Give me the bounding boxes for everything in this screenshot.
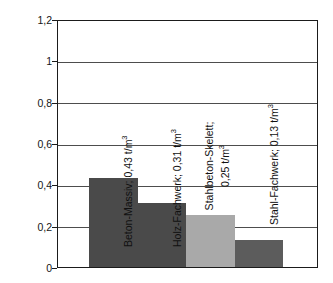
y-axis-tick-label: 0,8 <box>12 97 52 109</box>
y-axis-tick-label: 0,6 <box>12 138 52 150</box>
bar-annotation: Stahlbeton-Skelett;0,25 t/m3 <box>204 107 231 225</box>
bar-annotation-line: 0,25 t/m3 <box>216 107 231 225</box>
bar-annotation-line: Stahlbeton-Skelett; <box>204 107 216 225</box>
y-axis-tick-label: 0,2 <box>12 221 52 233</box>
y-axis-tick-label: 0 <box>12 262 52 274</box>
y-axis-tick-label: 1,2 <box>12 14 52 26</box>
bar-annotation: Beton-Massiv; 0,43 t/m3 <box>119 135 134 247</box>
chart-figure: Spez. Bauschuttmenge [t/m3 BRI] 00,20,40… <box>0 0 333 283</box>
bar-annotation: Holz-Fachwerk; 0,31 t/m3 <box>168 129 183 247</box>
bar <box>235 240 284 267</box>
y-axis-tick-label: 1 <box>12 55 52 67</box>
bar-annotation: Stahl-Fachwerk; 0,13 t/m3 <box>265 104 280 225</box>
y-axis-tick-mark <box>52 268 57 269</box>
plot-area: Beton-Massiv; 0,43 t/m3Holz-Fachwerk; 0,… <box>57 20 318 268</box>
y-axis-tick-label: 0,4 <box>12 179 52 191</box>
gridline <box>58 62 317 63</box>
